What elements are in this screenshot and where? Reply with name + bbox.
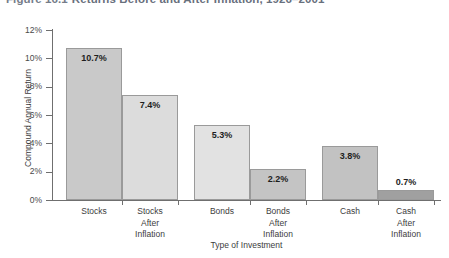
bar [378,190,434,200]
y-axis-tick [46,115,52,116]
category-label-line: Inflation [366,229,446,241]
category-label-line: Inflation [238,229,318,241]
x-axis-tick [378,200,379,205]
x-axis-tick [122,200,123,205]
y-axis-tick [46,58,52,59]
y-axis-tick [46,172,52,173]
y-axis-tick-label: 4% [0,139,42,148]
bar-value-label: 7.4% [122,100,178,110]
x-axis-line [52,200,441,201]
y-axis-tick-label: 10% [0,54,42,63]
bar-value-label: 10.7% [66,53,122,63]
y-axis-tick [46,87,52,88]
bar-value-label: 0.7% [378,177,434,187]
y-axis-tick-label: 2% [0,167,42,176]
category-label: BondsAfterInflation [238,206,318,241]
category-label-line: Cash [366,206,446,218]
bar-value-label: 5.3% [194,130,250,140]
y-axis-tick [46,143,52,144]
y-axis-tick-label: 6% [0,111,42,120]
x-axis-tick [306,200,307,205]
y-axis-line [52,29,53,201]
x-axis-tick [250,200,251,205]
y-axis-tick-label: 12% [0,26,42,35]
x-axis-tick [434,200,435,205]
x-axis-tick [178,200,179,205]
category-label-line: Stocks [110,206,190,218]
x-axis-title: Type of Investment [52,240,441,250]
y-axis-tick [46,30,52,31]
bar-value-label: 2.2% [250,174,306,184]
category-label: StocksAfterInflation [110,206,190,241]
bar-value-label: 3.8% [322,151,378,161]
category-label: CashAfterInflation [366,206,446,241]
y-axis-tick [46,200,52,201]
category-label-line: After [238,218,318,230]
category-label-line: After [110,218,190,230]
y-axis-tick-label: 8% [0,82,42,91]
category-label-line: After [366,218,446,230]
bar [122,95,178,200]
category-label-line: Inflation [110,229,190,241]
category-label-line: Bonds [238,206,318,218]
y-axis-tick-label: 0% [0,196,42,205]
bar-chart: Compound Annual Return Type of Investmen… [0,0,449,258]
bar [66,48,122,200]
